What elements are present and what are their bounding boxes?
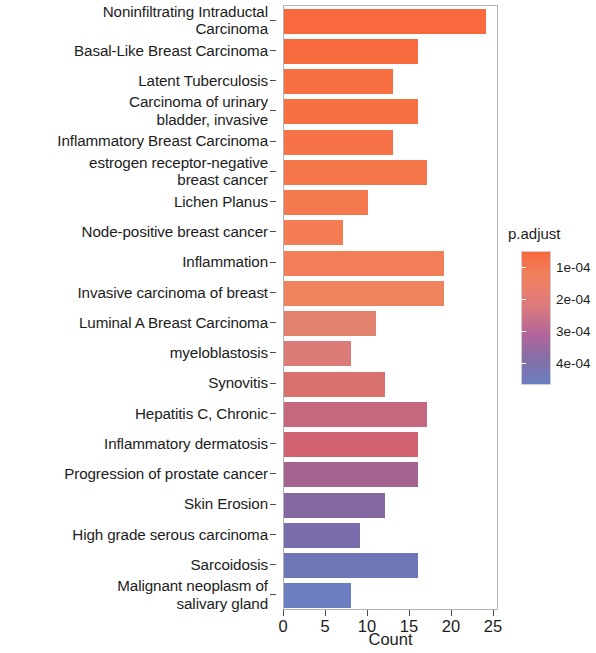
y-tick-label: Sarcoidosis bbox=[191, 556, 270, 574]
y-tick-mark bbox=[270, 80, 276, 81]
y-tick-mark bbox=[270, 383, 276, 384]
legend-tick-label: 1e-04 bbox=[556, 259, 591, 274]
y-tick-row: Skin Erosion bbox=[0, 489, 270, 519]
legend-title: p.adjust bbox=[508, 225, 561, 242]
y-tick-label: estrogen receptor-negative breast cancer bbox=[89, 154, 270, 189]
y-tick-label: Inflammatory dermatosis bbox=[104, 435, 270, 453]
y-tick-row: Noninfiltrating Intraductal Carcinoma bbox=[0, 5, 270, 35]
bar bbox=[284, 190, 368, 215]
bar bbox=[284, 160, 427, 185]
legend-tick-label: 2e-04 bbox=[556, 291, 591, 306]
y-tick-label: Synovitis bbox=[208, 374, 270, 392]
bar bbox=[284, 251, 444, 276]
y-tick-row: myeloblastosis bbox=[0, 338, 270, 368]
legend-tick-mark bbox=[521, 267, 526, 268]
y-tick-row: Luminal A Breast Carcinoma bbox=[0, 308, 270, 338]
y-axis-labels: Noninfiltrating Intraductal CarcinomaBas… bbox=[0, 5, 276, 610]
y-tick-mark bbox=[270, 262, 276, 263]
y-tick-label: Hepatitis C, Chronic bbox=[135, 405, 270, 423]
legend-tick-mark bbox=[521, 363, 526, 364]
x-tick-mark bbox=[451, 610, 452, 616]
y-tick-row: Carcinoma of urinary bladder, invasive bbox=[0, 96, 270, 126]
y-tick-row: estrogen receptor-negative breast cancer bbox=[0, 156, 270, 186]
y-tick-mark bbox=[270, 594, 276, 595]
bar bbox=[284, 99, 418, 124]
y-tick-row: Inflammatory Breast Carcinoma bbox=[0, 126, 270, 156]
y-tick-mark bbox=[270, 564, 276, 565]
y-tick-mark bbox=[270, 292, 276, 293]
y-tick-row: Latent Tuberculosis bbox=[0, 66, 270, 96]
bar bbox=[284, 9, 486, 34]
bar bbox=[284, 553, 418, 578]
legend-tick-mark bbox=[521, 331, 526, 332]
y-tick-label: myeloblastosis bbox=[170, 344, 270, 362]
y-tick-row: Synovitis bbox=[0, 368, 270, 398]
y-tick-mark bbox=[270, 534, 276, 535]
legend-tick-label: 4e-04 bbox=[556, 355, 591, 370]
y-tick-mark bbox=[270, 231, 276, 232]
y-tick-mark bbox=[270, 352, 276, 353]
y-tick-label: High grade serous carcinoma bbox=[72, 526, 270, 544]
legend: p.adjust 1e-042e-043e-044e-04 bbox=[508, 225, 596, 400]
y-tick-label: Latent Tuberculosis bbox=[138, 72, 270, 90]
x-tick-mark bbox=[409, 610, 410, 616]
bar bbox=[284, 281, 444, 306]
legend-colorbar bbox=[521, 251, 551, 385]
x-tick-mark bbox=[367, 610, 368, 616]
bar bbox=[284, 462, 418, 487]
y-tick-label: Inflammatory Breast Carcinoma bbox=[57, 132, 270, 150]
bar bbox=[284, 402, 427, 427]
bar bbox=[284, 523, 360, 548]
y-tick-label: Progression of prostate cancer bbox=[64, 465, 270, 483]
y-tick-mark bbox=[270, 504, 276, 505]
y-tick-mark bbox=[270, 443, 276, 444]
y-tick-row: Inflammation bbox=[0, 247, 270, 277]
y-tick-label: Lichen Planus bbox=[174, 193, 270, 211]
y-tick-mark bbox=[270, 141, 276, 142]
y-tick-mark bbox=[270, 473, 276, 474]
bar bbox=[284, 220, 343, 245]
plot-panel bbox=[283, 5, 498, 610]
legend-tick-mark bbox=[521, 299, 526, 300]
bar bbox=[284, 311, 376, 336]
y-tick-label: Noninfiltrating Intraductal Carcinoma bbox=[103, 3, 270, 38]
y-tick-label: Malignant neoplasm of salivary gland bbox=[117, 577, 270, 612]
y-tick-label: Invasive carcinoma of breast bbox=[77, 284, 270, 302]
y-tick-mark bbox=[270, 171, 276, 172]
y-tick-row: Hepatitis C, Chronic bbox=[0, 398, 270, 428]
y-tick-row: Inflammatory dermatosis bbox=[0, 429, 270, 459]
y-tick-mark bbox=[270, 201, 276, 202]
y-tick-mark bbox=[270, 110, 276, 111]
y-tick-row: Node-positive breast cancer bbox=[0, 217, 270, 247]
x-tick-mark bbox=[283, 610, 284, 616]
y-tick-label: Carcinoma of urinary bladder, invasive bbox=[129, 93, 270, 128]
y-tick-row: Malignant neoplasm of salivary gland bbox=[0, 580, 270, 610]
bar bbox=[284, 341, 351, 366]
bar bbox=[284, 39, 418, 64]
y-tick-row: Lichen Planus bbox=[0, 187, 270, 217]
x-tick-mark bbox=[493, 610, 494, 616]
x-axis-title: Count bbox=[283, 630, 498, 649]
bar bbox=[284, 493, 385, 518]
y-tick-label: Basal-Like Breast Carcinoma bbox=[74, 42, 270, 60]
y-tick-row: Progression of prostate cancer bbox=[0, 459, 270, 489]
legend-tick-label: 3e-04 bbox=[556, 323, 591, 338]
y-tick-label: Luminal A Breast Carcinoma bbox=[79, 314, 270, 332]
x-tick-mark bbox=[325, 610, 326, 616]
y-tick-mark bbox=[270, 413, 276, 414]
bar-chart: Noninfiltrating Intraductal CarcinomaBas… bbox=[0, 0, 596, 653]
y-tick-row: Basal-Like Breast Carcinoma bbox=[0, 35, 270, 65]
y-tick-mark bbox=[270, 50, 276, 51]
y-tick-row: Sarcoidosis bbox=[0, 550, 270, 580]
bar bbox=[284, 583, 351, 608]
y-tick-row: High grade serous carcinoma bbox=[0, 519, 270, 549]
bar bbox=[284, 69, 393, 94]
y-tick-mark bbox=[270, 20, 276, 21]
y-tick-label: Inflammation bbox=[182, 253, 270, 271]
bar bbox=[284, 372, 385, 397]
y-tick-mark bbox=[270, 322, 276, 323]
y-tick-label: Skin Erosion bbox=[184, 495, 270, 513]
bar bbox=[284, 432, 418, 457]
y-tick-label: Node-positive breast cancer bbox=[82, 223, 270, 241]
bar bbox=[284, 130, 393, 155]
